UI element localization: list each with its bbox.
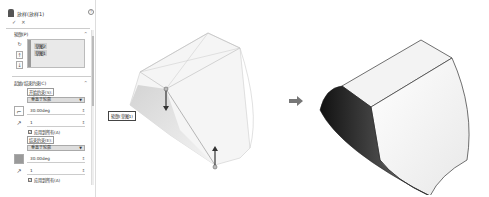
end-angle-value: 30.00deg (30, 156, 50, 161)
move-down-button[interactable]: ↓ (16, 61, 23, 69)
spinner-icon[interactable]: ⇕ (82, 168, 85, 174)
profile-callout[interactable]: 轮廓(草图1) (108, 111, 136, 121)
spinner-icon[interactable]: ⇕ (82, 156, 85, 162)
ok-button[interactable]: ✓ (12, 19, 16, 25)
loft-property-manager: 放样(放样1) ? ✓ ✕ 轮廓(P) ^ ↻ ↑ ↓ 草图2 草图1 起始/结… (0, 0, 96, 197)
loft-preview-viewport[interactable] (100, 0, 260, 197)
draft-angle-icon: ⌐ (14, 106, 24, 116)
scrollbar-thumb[interactable] (92, 36, 94, 106)
spinner-icon[interactable]: ⇕ (82, 120, 85, 126)
title-divider (6, 28, 90, 29)
end-length-input[interactable]: 1 ⇕ (27, 168, 85, 175)
collapse-caret-icon[interactable]: ^ (84, 31, 87, 36)
collapse-caret-icon[interactable]: ^ (84, 80, 87, 85)
draft-angle-icon (14, 154, 24, 164)
panel-title: 放样(放样1) (17, 10, 44, 17)
ok-cancel-row: ✓ ✕ (12, 19, 25, 25)
constraints-section-header[interactable]: 起始/结束约束(C) (14, 80, 46, 86)
end-length-value: 1 (30, 168, 33, 173)
profile-select-icon[interactable]: ↻ (16, 41, 23, 49)
start-angle-input[interactable]: 30.00deg ⇕ (27, 108, 85, 115)
end-constraint-dropdown[interactable]: 垂直于轮廓 ▼ (27, 145, 85, 151)
list-item[interactable]: 草图2 (34, 43, 47, 49)
list-color-bar (28, 40, 31, 67)
start-constraint-value: 垂直于轮廓 (31, 97, 51, 102)
list-item[interactable]: 草图1 (34, 50, 47, 56)
profiles-section-header[interactable]: 轮廓(P) (14, 31, 28, 37)
start-apply-all-checkbox[interactable]: ✓ 应用到所有(A) (28, 129, 60, 135)
section-divider (12, 76, 92, 77)
loft-result-model (300, 15, 489, 195)
end-constraint-label: 结束约束(E): (27, 136, 54, 144)
chevron-down-icon: ▼ (79, 146, 82, 150)
end-apply-all-checkbox[interactable]: ✓ 应用到所有(A) (28, 177, 60, 183)
chevron-down-icon: ▼ (79, 98, 82, 102)
panel-scrollbar[interactable] (91, 30, 94, 185)
start-constraint-dropdown[interactable]: 垂直于轮廓 ▼ (27, 97, 85, 103)
spinner-icon[interactable]: ⇕ (82, 108, 85, 114)
start-constraint-label: 开始约束(S): (27, 88, 54, 96)
checkbox-label: 应用到所有(A) (34, 129, 60, 135)
start-length-value: 1 (30, 120, 33, 125)
start-length-input[interactable]: 1 ⇕ (27, 120, 85, 127)
tangent-length-icon: ↗ (14, 166, 24, 176)
help-icon[interactable]: ? (88, 9, 94, 15)
move-up-button[interactable]: ↑ (16, 51, 23, 59)
tangent-length-icon: ↗ (14, 118, 24, 128)
loft-feature-icon (8, 9, 14, 17)
checkbox-checked-icon[interactable]: ✓ (28, 130, 32, 134)
start-angle-value: 30.00deg (30, 108, 50, 113)
checkbox-checked-icon[interactable]: ✓ (28, 178, 32, 182)
cancel-button[interactable]: ✕ (21, 19, 25, 25)
checkbox-label: 应用到所有(A) (34, 177, 60, 183)
end-constraint-value: 垂直于轮廓 (31, 145, 51, 150)
profiles-list[interactable]: 草图2 草图1 (27, 39, 85, 68)
panel-title-row: 放样(放样1) (8, 8, 94, 18)
end-angle-input[interactable]: 30.00deg ⇕ (27, 156, 85, 163)
